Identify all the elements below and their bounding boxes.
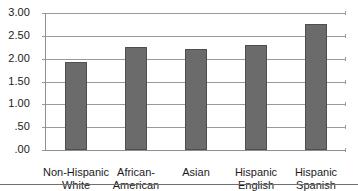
plot-area: 3.002.502.001.501.00.50.00 Non-Hispanic … [46,13,346,150]
x-axis-category-label: Hispanic English [222,166,290,191]
gridline [46,36,346,37]
x-axis-line [45,150,346,151]
y-axis-tick-label: .00 [0,144,30,155]
gridline [46,13,346,14]
y-tick-mark-right [345,57,346,61]
x-axis-category-label: Non-Hispanic White [42,166,110,191]
y-axis-tick-label: 1.00 [0,98,30,109]
y-axis-tick-label: 2.50 [0,30,30,41]
bar [305,24,327,150]
x-axis-category-label: Asian [162,166,230,179]
y-axis-tick-label: .50 [0,121,30,132]
y-tick-mark-right [345,11,346,15]
bar-chart-figure: 3.002.502.001.501.00.50.00 Non-Hispanic … [0,0,358,191]
y-tick-mark-right [345,34,346,38]
y-axis-tick-label: 1.50 [0,76,30,87]
bar [245,45,267,150]
x-axis-category-label: Hispanic Spanish [282,166,350,191]
y-axis-line [45,13,46,151]
footer-rule [0,184,358,185]
y-axis-tick-label: 2.00 [0,53,30,64]
bar [125,47,147,150]
bar [65,62,87,150]
y-axis-tick-label: 3.00 [0,7,30,18]
x-axis-category-label: African- American [102,166,170,191]
y-tick-mark-right [345,80,346,84]
bar [185,49,207,150]
y-tick-mark-right [345,125,346,129]
y-tick-mark-right [345,102,346,106]
